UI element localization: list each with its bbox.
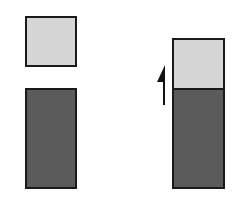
up-arrow-icon — [0, 0, 240, 198]
